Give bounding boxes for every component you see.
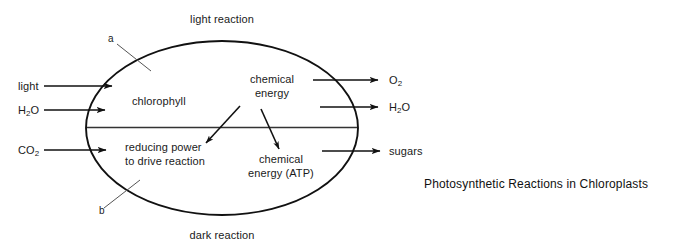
- interior-label-chemical-energy: chemical energy: [227, 72, 317, 100]
- input-label-carbon-dioxide: CO2: [18, 144, 39, 160]
- interior-label-chlorophyll: chlorophyll: [132, 95, 186, 108]
- co2-symbol-co: CO: [18, 144, 35, 156]
- arrow-energy-to-atp: [261, 109, 279, 149]
- input-label-water: H2O: [18, 104, 39, 120]
- input-label-light: light: [18, 80, 39, 93]
- light-reaction-label: light reaction: [190, 13, 254, 26]
- water-out-symbol-h: H: [389, 101, 397, 113]
- callout-leader-a: [117, 44, 151, 71]
- reducing-power-line2: to drive reaction: [125, 154, 205, 168]
- chemical-energy-line1: chemical: [227, 72, 317, 86]
- water-symbol-o: O: [31, 104, 40, 116]
- oxygen-symbol-o: O: [389, 74, 398, 86]
- callout-label-b: b: [99, 205, 105, 216]
- dark-reaction-label: dark reaction: [190, 229, 255, 242]
- water-symbol-h: H: [18, 104, 26, 116]
- output-label-oxygen: O2: [389, 74, 402, 90]
- diagram-canvas: light reaction dark reaction a b light H…: [0, 0, 682, 252]
- reducing-power-line1: reducing power: [125, 140, 205, 154]
- oxygen-subscript: 2: [398, 79, 403, 88]
- arrow-energy-to-reducing-power: [206, 106, 240, 143]
- interior-label-chemical-energy-atp: chemical energy (ATP): [231, 152, 331, 180]
- callout-label-a: a: [108, 33, 114, 44]
- figure-title: Photosynthetic Reactions in Chloroplasts: [424, 177, 648, 191]
- output-label-sugars: sugars: [389, 145, 423, 158]
- chemical-energy-line2: energy: [227, 86, 317, 100]
- output-label-water: H2O: [389, 101, 410, 117]
- atp-line2: energy (ATP): [231, 166, 331, 180]
- interior-label-reducing-power: reducing power to drive reaction: [125, 140, 205, 168]
- atp-line1: chemical: [231, 152, 331, 166]
- co2-subscript: 2: [35, 149, 40, 158]
- water-out-symbol-o: O: [402, 101, 411, 113]
